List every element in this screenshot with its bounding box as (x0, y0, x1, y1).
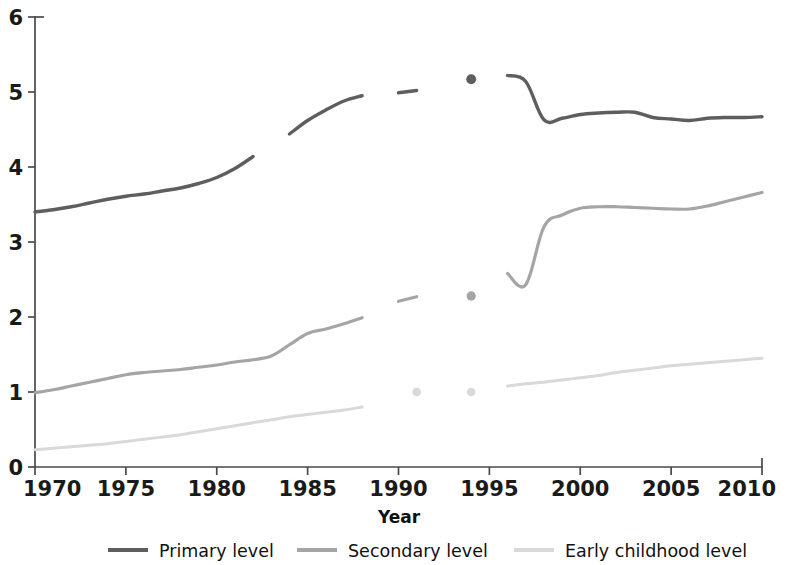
x-axis: 197019751980198519901995200020052010 (23, 458, 776, 501)
series-line-segment (508, 358, 762, 386)
series-data-point (467, 291, 476, 300)
series-line-segment (35, 407, 362, 450)
y-axis-tick-label: 0 (8, 456, 23, 480)
legend-item[interactable]: Primary level (108, 541, 274, 561)
y-axis-tick-label: 5 (8, 81, 23, 105)
x-axis-tick-label: 1990 (369, 477, 427, 501)
series-primary-level (35, 74, 762, 212)
line-chart: 0123456 19701975198019851990199520002005… (0, 0, 791, 565)
x-axis-tick-label: 1975 (97, 477, 155, 501)
series-layer (35, 74, 762, 449)
legend-item[interactable]: Early childhood level (514, 541, 747, 561)
x-axis-tick-label: 1980 (188, 477, 246, 501)
legend-label: Secondary level (348, 541, 488, 561)
y-axis-tick-label: 2 (8, 306, 23, 330)
x-axis-title: Year (377, 507, 421, 527)
x-axis-tick-label: 2010 (718, 477, 776, 501)
series-line-segment (508, 193, 762, 287)
series-line-segment (399, 91, 417, 93)
x-axis-tick-label: 1985 (278, 477, 336, 501)
legend-label: Primary level (159, 541, 274, 561)
axis-title-layer: Year (377, 507, 421, 527)
x-axis-tick-label: 2005 (642, 477, 700, 501)
legend-label: Early childhood level (565, 541, 747, 561)
series-data-point (466, 74, 476, 84)
series-data-point (412, 388, 421, 397)
y-axis-tick-label: 6 (8, 6, 23, 30)
x-axis-tick-label: 2000 (551, 477, 609, 501)
series-line-segment (289, 96, 362, 134)
y-axis-tick-label: 1 (8, 381, 23, 405)
x-axis-tick-label: 1995 (460, 477, 518, 501)
series-data-point (467, 388, 476, 397)
y-axis-tick-label: 4 (8, 156, 23, 180)
chart-canvas: 0123456 19701975198019851990199520002005… (0, 0, 791, 565)
chart-legend: Primary levelSecondary levelEarly childh… (108, 541, 747, 561)
y-axis-tick-label: 3 (8, 231, 23, 255)
series-line-segment (508, 76, 762, 123)
series-line-segment (35, 318, 362, 393)
legend-item[interactable]: Secondary level (297, 541, 488, 561)
x-axis-tick-label: 1970 (23, 477, 81, 501)
series-secondary-level (35, 193, 762, 393)
series-line-segment (399, 297, 417, 302)
series-line-segment (35, 157, 253, 213)
y-axis: 0123456 (8, 6, 44, 480)
